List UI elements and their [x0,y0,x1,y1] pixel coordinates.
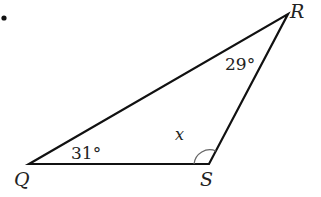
vertex-label-q: Q [14,168,30,190]
triangle-diagram: R Q S 29° 31° x [0,0,321,197]
angle-label-s: x [175,125,184,144]
vertex-label-s: S [200,168,213,190]
bullet-marker [1,15,6,20]
angle-label-r: 29° [225,54,255,74]
triangle-qrs [29,14,288,164]
angle-label-q: 31° [71,143,101,163]
vertex-label-r: R [289,0,304,22]
